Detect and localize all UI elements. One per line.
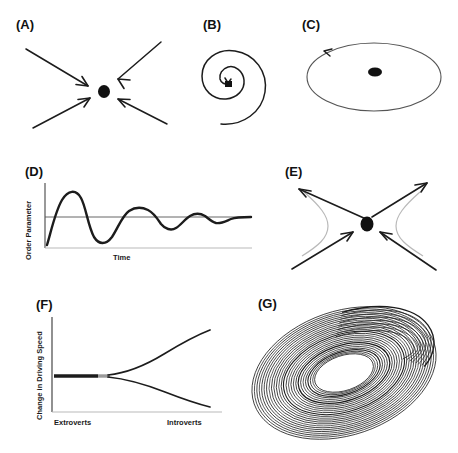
panel-b-stable-spiral: (B): [185, 0, 290, 150]
panel-d-x-axis-label: Time: [113, 253, 130, 262]
panel-f-lower-branch: [108, 377, 210, 407]
panel-c-limit-cycle: (C): [290, 0, 458, 150]
panel-d-y-axis-label: Order Parameter: [24, 201, 33, 260]
panel-g-strange-attractor: (G): [232, 285, 458, 453]
panel-b-label: (B): [203, 17, 221, 32]
panel-b-fixed-point: [225, 81, 232, 87]
panel-b-diagram: [185, 0, 290, 150]
panel-e-fixed-point: [361, 217, 374, 232]
panel-a-label: (A): [16, 17, 34, 32]
panel-e-saddle-point: (E): [268, 150, 458, 285]
panel-d-series-line: [47, 192, 251, 245]
panel-a-fixed-point: [98, 85, 110, 98]
panel-f-upper-branch: [108, 330, 210, 375]
panel-c-fixed-point: [368, 68, 382, 77]
panel-d-label: (D): [25, 164, 43, 179]
panel-g-label: (G): [258, 296, 277, 311]
panel-f-bifurcation: (F) Change in Driving Speed Extroverts I…: [0, 285, 232, 453]
panel-f-y-axis-label: Change in Driving Speed: [35, 331, 44, 420]
panel-f-xtick-introverts: Introverts: [167, 418, 202, 427]
panel-f-label: (F): [36, 297, 53, 312]
panel-d-damped-oscillation: (D) Order Parameter Time: [0, 150, 268, 285]
attractor-figure: (A) (B): [0, 0, 458, 453]
panel-f-xtick-extroverts: Extroverts: [54, 418, 91, 427]
panel-e-label: (E): [285, 164, 302, 179]
panel-c-label: (C): [302, 17, 320, 32]
panel-a-stable-node: (A): [0, 0, 185, 150]
